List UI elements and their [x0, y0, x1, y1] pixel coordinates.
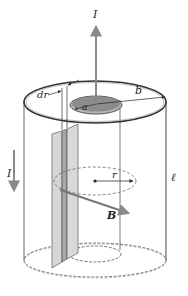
outer-cylinder	[24, 102, 166, 278]
label-r: r	[112, 169, 118, 180]
label-length: ℓ	[171, 171, 176, 184]
label-dr: dr	[37, 89, 49, 100]
coaxial-cable-diagram: I I dr a b r B ℓ	[0, 0, 188, 296]
label-a: a	[82, 102, 87, 112]
shell-strip	[52, 124, 78, 268]
label-B: B	[106, 209, 116, 222]
label-b: b	[135, 84, 142, 97]
label-current-down: I	[6, 167, 12, 180]
label-current-up: I	[92, 8, 98, 21]
